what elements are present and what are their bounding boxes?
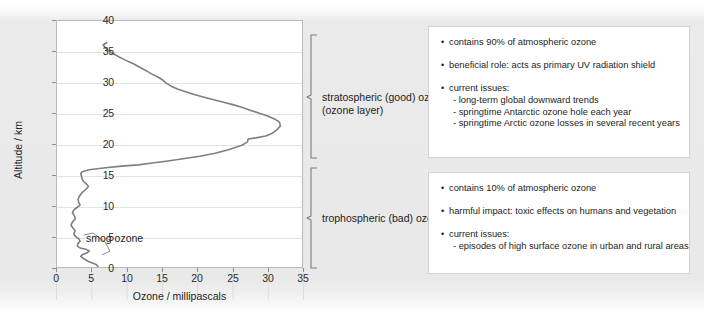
bullet-text-group: current issues: - episodes of high surfa… bbox=[449, 228, 689, 253]
sub-item: - springtime Antarctic ozone hole each y… bbox=[449, 107, 680, 119]
bullet-text-group: current issues: - long-term global downw… bbox=[449, 82, 680, 130]
xtick-label-10: 10 bbox=[112, 272, 142, 284]
ytick-mark-20 bbox=[52, 144, 56, 145]
bullet-icon: • bbox=[441, 182, 449, 194]
ytick-mark-40 bbox=[52, 20, 56, 21]
ytick-label-20: 20 bbox=[74, 138, 114, 150]
ytick-label-30: 30 bbox=[74, 76, 114, 88]
xtick-label-0: 0 bbox=[41, 272, 71, 284]
list-item: • current issues: - episodes of high sur… bbox=[441, 228, 677, 253]
ytick-mark-5 bbox=[52, 237, 56, 238]
list-item: • beneficial role: acts as primary UV ra… bbox=[441, 59, 677, 71]
bullet-text: beneficial role: acts as primary UV radi… bbox=[449, 59, 677, 71]
ytick-label-25: 25 bbox=[74, 107, 114, 119]
sub-item: - episodes of high surface ozone in urba… bbox=[449, 241, 689, 253]
bullet-text: current issues: bbox=[449, 83, 509, 93]
xtick-label-30: 30 bbox=[253, 272, 283, 284]
ytick-label-10: 10 bbox=[74, 200, 114, 212]
bullet-icon: • bbox=[441, 228, 449, 240]
bullet-text: harmful impact: toxic effects on humans … bbox=[449, 205, 677, 217]
sub-item: - springtime Arctic ozone losses in seve… bbox=[449, 118, 680, 130]
sub-list: - long-term global downward trends - spr… bbox=[449, 95, 680, 130]
smog-ozone-annotation: smog ozone bbox=[86, 232, 143, 244]
xtick-label-15: 15 bbox=[147, 272, 177, 284]
xtick-label-35: 35 bbox=[288, 272, 318, 284]
tropospheric-info-box: • contains 10% of atmospheric ozone • ha… bbox=[428, 172, 690, 274]
list-item: • contains 10% of atmospheric ozone bbox=[441, 182, 677, 194]
ytick-mark-15 bbox=[52, 175, 56, 176]
ytick-mark-30 bbox=[52, 82, 56, 83]
bullet-text: contains 90% of atmospheric ozone bbox=[449, 36, 677, 48]
xtick-label-25: 25 bbox=[218, 272, 248, 284]
bullet-text: contains 10% of atmospheric ozone bbox=[449, 182, 677, 194]
bullet-text: current issues: bbox=[449, 229, 509, 239]
bullet-icon: • bbox=[441, 205, 449, 217]
tropospheric-layer-label-line1: trophospheric (bad) ozone bbox=[322, 212, 445, 225]
ytick-label-35: 35 bbox=[74, 45, 114, 57]
list-item: • contains 90% of atmospheric ozone bbox=[441, 36, 677, 48]
y-axis-title: Altitude / km bbox=[12, 95, 24, 205]
ytick-mark-25 bbox=[52, 113, 56, 114]
x-axis-title: Ozone / millipascals bbox=[56, 290, 303, 302]
stratospheric-info-box: • contains 90% of atmospheric ozone • be… bbox=[428, 26, 690, 158]
xtick-label-20: 20 bbox=[182, 272, 212, 284]
ytick-label-15: 15 bbox=[74, 169, 114, 181]
list-item: • harmful impact: toxic effects on human… bbox=[441, 205, 677, 217]
sub-item: - long-term global downward trends bbox=[449, 95, 680, 107]
ozone-altitude-chart: 40 35 30 25 20 15 10 5 0 0 5 10 15 20 25… bbox=[0, 0, 420, 312]
ozone-profile-figure: 40 35 30 25 20 15 10 5 0 0 5 10 15 20 25… bbox=[0, 0, 704, 312]
sub-list: - episodes of high surface ozone in urba… bbox=[449, 241, 689, 253]
xtick-label-5: 5 bbox=[76, 272, 106, 284]
ytick-mark-10 bbox=[52, 206, 56, 207]
bullet-icon: • bbox=[441, 82, 449, 94]
ytick-label-40: 40 bbox=[74, 14, 114, 26]
bullet-icon: • bbox=[441, 59, 449, 71]
bullet-icon: • bbox=[441, 36, 449, 48]
tropospheric-layer-label: trophospheric (bad) ozone bbox=[322, 212, 445, 225]
ytick-mark-35 bbox=[52, 51, 56, 52]
list-item: • current issues: - long-term global dow… bbox=[441, 82, 677, 130]
